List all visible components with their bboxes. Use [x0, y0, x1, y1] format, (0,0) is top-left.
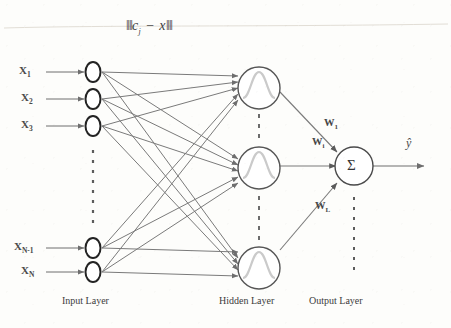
input-sub: 1 [27, 70, 31, 79]
input-label-x3: X3 [21, 119, 33, 133]
input-sub: N-1 [22, 246, 34, 255]
input-label-xn: XN [21, 265, 34, 279]
input-sub: N [29, 270, 34, 279]
input-label-x2: X2 [21, 92, 33, 106]
weight-name: W [315, 200, 326, 211]
input-name: X [21, 91, 29, 103]
input-hidden-connections [102, 72, 238, 276]
rbf-network-diagram: ‖‖cj − x‖‖ X1 X2 X3 XN-1 XN W1 Wi WL Σ ŷ… [0, 0, 451, 328]
output-symbol-label: ŷ [406, 137, 411, 149]
norm-bar-close2: ‖ [169, 18, 172, 33]
norm-minus: − [145, 18, 155, 33]
input-name: X [21, 264, 29, 276]
weight-name: W [312, 136, 323, 147]
layer-caption-hidden: Hidden Layer [219, 296, 274, 306]
weight-label-wi: Wi [312, 137, 324, 150]
norm-x: x [159, 18, 166, 33]
input-name: X [21, 118, 29, 130]
weight-sub: L [326, 206, 331, 214]
weight-sub: i [323, 142, 325, 150]
weight-label-w1: W1 [324, 118, 338, 131]
input-sub: 3 [29, 124, 33, 133]
hidden-output-connections [280, 92, 337, 250]
norm-c: c [132, 18, 139, 33]
layer-caption-output: Output Layer [309, 296, 363, 306]
input-name: X [14, 240, 22, 252]
weight-name: W [324, 117, 335, 128]
input-label-x1: X1 [19, 65, 31, 79]
summation-symbol: Σ [347, 157, 356, 174]
weight-sub: 1 [335, 123, 339, 131]
input-name: X [19, 64, 27, 76]
hidden-nodes [238, 67, 280, 289]
norm-formula-label: ‖‖cj − x‖‖ [126, 19, 172, 36]
norm-c-sub: j [139, 27, 142, 36]
weight-label-wl: WL [315, 201, 330, 214]
input-label-xn-1: XN-1 [14, 241, 34, 255]
input-sub: 2 [29, 97, 33, 106]
input-feed-arrows [46, 72, 84, 272]
scan-artifact-line [4, 24, 448, 28]
layer-caption-input: Input Layer [62, 296, 109, 306]
network-graphics [0, 0, 451, 328]
